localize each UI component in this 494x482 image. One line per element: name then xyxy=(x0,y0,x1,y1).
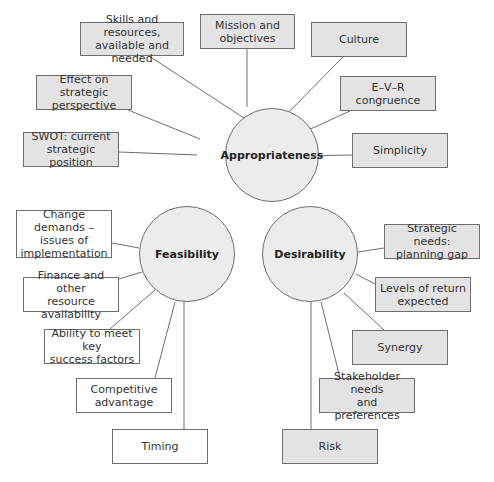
criterion-box-appropriateness: SWOT: current strategic position xyxy=(23,132,119,167)
hub-label: Desirability xyxy=(274,248,345,261)
hub-feasibility: Feasibility xyxy=(139,206,235,302)
hub-appropriateness: Appropriateness xyxy=(225,108,319,202)
hub-label: Appropriateness xyxy=(221,149,324,162)
connector-desirability xyxy=(358,248,384,252)
criterion-box-feasibility: Competitive advantage xyxy=(76,378,172,413)
connector-appropriateness xyxy=(128,110,200,139)
connector-appropriateness xyxy=(149,56,244,118)
criterion-box-feasibility: Finance and other resource availability xyxy=(23,277,119,312)
criterion-box-appropriateness: Skills and resources, available and need… xyxy=(80,22,184,56)
connector-desirability xyxy=(321,302,340,378)
connector-feasibility xyxy=(119,272,142,279)
criterion-box-desirability: Risk xyxy=(282,429,378,464)
criterion-box-feasibility: Change demands – issues of implementatio… xyxy=(16,210,112,258)
criterion-box-desirability: Strategic needs: planning gap xyxy=(384,224,480,259)
connector-feasibility xyxy=(112,243,139,248)
hub-desirability: Desirability xyxy=(262,206,358,302)
criterion-box-desirability: Stakeholder needs and preferences xyxy=(319,378,415,413)
connector-feasibility xyxy=(155,302,175,378)
criterion-box-desirability: Synergy xyxy=(352,330,448,365)
connector-appropriateness xyxy=(119,152,197,155)
hub-label: Feasibility xyxy=(155,248,219,261)
connector-desirability xyxy=(356,274,375,284)
criterion-box-appropriateness: Culture xyxy=(311,22,407,57)
criterion-box-feasibility: Timing xyxy=(112,429,208,464)
criterion-box-appropriateness: Effect on strategic perspective xyxy=(36,75,132,110)
connector-appropriateness xyxy=(281,57,343,120)
criterion-box-appropriateness: Simplicity xyxy=(352,133,448,168)
strategy-evaluation-diagram: AppropriatenessFeasibilityDesirability S… xyxy=(0,0,494,482)
criterion-box-desirability: Levels of return expected xyxy=(375,277,471,312)
criterion-box-appropriateness: Mission and objectives xyxy=(200,14,295,49)
criterion-box-feasibility: Ability to meet key success factors xyxy=(44,329,140,364)
criterion-box-appropriateness: E–V–R congruence xyxy=(340,76,436,111)
